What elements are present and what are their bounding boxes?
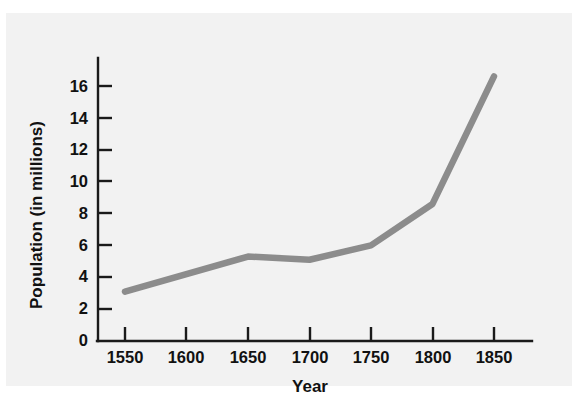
y-axis-title: Population (in millions) xyxy=(27,121,46,309)
population-line-series xyxy=(125,76,494,291)
y-tick-label-6: 6 xyxy=(79,236,88,254)
x-tick-label-1750: 1750 xyxy=(353,348,390,366)
x-axis-title: Year xyxy=(292,377,328,396)
y-tick-label-8: 8 xyxy=(79,204,88,222)
line-chart: Population (in millions) 16 14 12 10 8 6… xyxy=(0,0,582,411)
y-tick-label-14: 14 xyxy=(70,109,89,127)
y-tick-label-4: 4 xyxy=(79,267,89,285)
x-tick-label-1800: 1800 xyxy=(415,348,452,366)
x-tick-label-1850: 1850 xyxy=(476,348,513,366)
figure-canvas: Population (in millions) 16 14 12 10 8 6… xyxy=(0,0,582,411)
y-tick-label-12: 12 xyxy=(70,140,88,158)
y-tick-label-0: 0 xyxy=(79,331,88,349)
y-tick-label-16: 16 xyxy=(70,77,88,95)
x-tick-label-1700: 1700 xyxy=(292,348,329,366)
x-tick-label-1650: 1650 xyxy=(230,348,267,366)
y-tick-label-10: 10 xyxy=(70,172,88,190)
x-tick-label-1600: 1600 xyxy=(168,348,205,366)
x-tick-label-1550: 1550 xyxy=(107,348,144,366)
y-tick-label-2: 2 xyxy=(79,299,88,317)
